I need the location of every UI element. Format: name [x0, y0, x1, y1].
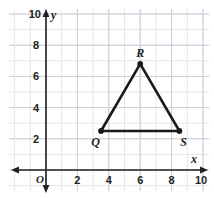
vertex-point-r: [137, 61, 143, 67]
x-tick-label: 6: [137, 174, 143, 186]
vertex-label-q: Q: [91, 135, 100, 149]
x-tick-label: 8: [169, 174, 175, 186]
axis-lines: [11, 9, 208, 193]
y-tick-label: 4: [33, 102, 40, 114]
x-tick-label: 2: [74, 174, 80, 186]
origin-label: O: [36, 173, 44, 185]
y-axis-label: y: [49, 8, 57, 22]
grid-major-lines: [9, 9, 209, 191]
y-axis-up-arrow: [43, 9, 50, 17]
x-tick-label: 10: [195, 174, 207, 186]
y-tick-label: 10: [29, 8, 41, 20]
x-axis-right-arrow: [200, 167, 208, 174]
coordinate-plane: y x O 2 4 6 8 10 2 4 6 8 10 Q R S: [0, 0, 214, 198]
y-tick-label: 2: [33, 133, 39, 145]
x-tick-label: 4: [106, 174, 113, 186]
vertex-point-q: [98, 128, 104, 134]
y-axis-down-arrow: [43, 185, 50, 193]
vertex-label-s: S: [180, 135, 187, 149]
y-tick-label: 6: [33, 70, 39, 82]
y-tick-label: 8: [33, 39, 39, 51]
vertex-point-s: [177, 128, 183, 134]
figure-canvas: y x O 2 4 6 8 10 2 4 6 8 10 Q R S: [0, 0, 214, 198]
vertex-label-r: R: [135, 46, 144, 60]
x-axis-label: x: [190, 152, 197, 166]
